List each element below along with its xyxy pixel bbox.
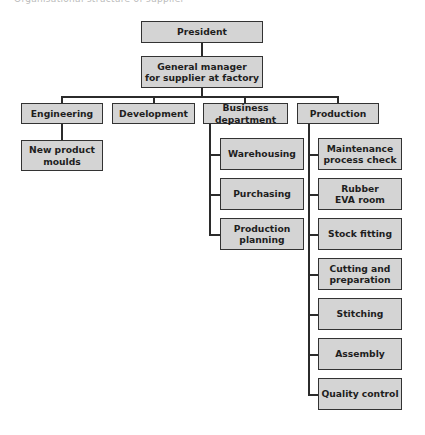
node-general-manager: General manager for supplier at factory: [141, 56, 263, 88]
node-production: Production: [297, 103, 379, 124]
connector: [61, 96, 338, 98]
node-purchasing: Purchasing: [220, 178, 304, 210]
node-maintenance: Maintenance process check: [318, 138, 402, 170]
node-engineering: Engineering: [21, 103, 103, 124]
node-rubber-eva: Rubber EVA room: [318, 178, 402, 210]
connector: [61, 123, 63, 140]
node-stock-fitting: Stock fitting: [318, 218, 402, 250]
node-cutting: Cutting and preparation: [318, 258, 402, 290]
connector: [201, 42, 203, 56]
node-stitching: Stitching: [318, 298, 402, 330]
connector: [308, 394, 318, 396]
connector: [209, 123, 211, 235]
connector: [209, 234, 220, 236]
figure-caption: Organisational structure of supplier: [14, 0, 184, 4]
connector: [209, 194, 220, 196]
node-development: Development: [112, 103, 195, 124]
connector: [153, 96, 155, 103]
node-business-department: Business department: [203, 103, 288, 124]
node-quality-control: Quality control: [318, 378, 402, 410]
node-warehousing: Warehousing: [220, 138, 304, 170]
node-president: President: [141, 21, 263, 43]
connector: [308, 314, 318, 316]
connector: [337, 96, 339, 103]
connector: [209, 154, 220, 156]
node-assembly: Assembly: [318, 338, 402, 370]
connector: [308, 194, 318, 196]
node-new-product-moulds: New product moulds: [21, 140, 103, 171]
node-production-planning: Production planning: [220, 218, 304, 250]
connector: [308, 354, 318, 356]
connector: [308, 154, 318, 156]
connector: [308, 274, 318, 276]
connector: [61, 96, 63, 103]
connector: [308, 234, 318, 236]
